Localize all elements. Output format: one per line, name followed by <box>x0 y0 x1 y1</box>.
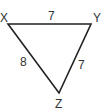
vertex-label-y: Y <box>93 11 101 25</box>
triangle-diagram: X Y Z 7 7 8 <box>0 0 107 109</box>
side-label-yz: 7 <box>78 58 85 72</box>
vertex-label-z: Z <box>55 97 62 109</box>
vertex-label-x: X <box>0 11 8 25</box>
side-label-xz: 8 <box>20 55 27 69</box>
side-label-xy: 7 <box>48 9 55 23</box>
